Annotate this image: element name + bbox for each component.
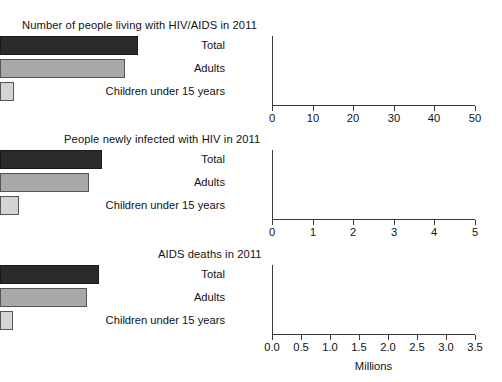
bar-children-under-15-years (0, 196, 19, 215)
y-axis-spine (272, 36, 273, 105)
bar-children-under-15-years (0, 311, 13, 330)
category-label: Total (201, 150, 225, 169)
bar-adults (0, 59, 125, 78)
chart-title-3: AIDS deaths in 2011 (158, 248, 262, 261)
x-axis-tick-label: 1.0 (322, 341, 338, 353)
chart-title-2: People newly infected with HIV in 2011 (64, 133, 260, 146)
x-axis-tick (388, 335, 389, 340)
x-axis-tick-label: 1.5 (351, 341, 367, 353)
x-axis-tick (434, 106, 435, 111)
x-axis-tick-label: 3 (391, 226, 397, 238)
x-axis-tick (394, 220, 395, 225)
x-axis-tick (313, 220, 314, 225)
bar-row (0, 265, 203, 284)
x-axis-tick (475, 106, 476, 111)
x-axis-tick-label: 2 (350, 226, 356, 238)
category-label: Total (201, 265, 225, 284)
bar-adults (0, 288, 87, 307)
y-axis-spine (272, 265, 273, 334)
bar-total (0, 150, 102, 169)
bar-row (0, 36, 203, 55)
x-axis-line (272, 334, 475, 335)
x-axis-line (272, 105, 475, 106)
x-axis-tick-label: 0 (269, 112, 275, 124)
bar-row (0, 59, 203, 78)
x-axis-tick-label: 30 (388, 112, 400, 124)
x-axis-tick-label: 2.5 (409, 341, 425, 353)
x-axis-line (272, 219, 475, 220)
x-axis-tick (313, 106, 314, 111)
bar-children-under-15-years (0, 82, 14, 101)
x-axis-tick-label: 0 (269, 226, 275, 238)
x-axis-tick-label: 5 (472, 226, 478, 238)
x-axis-tick (417, 335, 418, 340)
bar-row (0, 288, 203, 307)
x-axis-tick-label: 4 (431, 226, 437, 238)
category-label: Total (201, 36, 225, 55)
x-axis-tick (353, 106, 354, 111)
x-axis-tick-label: 0.0 (264, 341, 280, 353)
x-axis-tick-label: 2.0 (380, 341, 396, 353)
category-label: Adults (194, 288, 225, 307)
bar-total (0, 36, 138, 55)
x-axis-tick-label: 50 (469, 112, 481, 124)
x-axis-tick (272, 220, 273, 225)
bar-row (0, 173, 203, 192)
chart-title-1: Number of people living with HIV/AIDS in… (22, 19, 257, 32)
x-axis-tick (475, 220, 476, 225)
category-label: Children under 15 years (106, 82, 225, 101)
x-axis-tick (272, 335, 273, 340)
category-label: Children under 15 years (106, 196, 225, 215)
bar-adults (0, 173, 89, 192)
bar-total (0, 265, 99, 284)
x-axis-tick-label: 0.5 (293, 341, 309, 353)
x-axis-tick (330, 335, 331, 340)
y-axis-spine (272, 150, 273, 219)
category-label: Adults (194, 173, 225, 192)
x-axis-tick-label: 3.5 (467, 341, 483, 353)
x-axis-tick (301, 335, 302, 340)
bar-row (0, 150, 203, 169)
x-axis-tick (446, 335, 447, 340)
x-axis-tick-label: 40 (428, 112, 440, 124)
x-axis-tick (394, 106, 395, 111)
hiv-aids-bar-chart-figure: Number of people living with HIV/AIDS in… (0, 0, 502, 382)
category-label: Children under 15 years (106, 311, 225, 330)
x-axis-tick-label: 10 (307, 112, 319, 124)
x-axis-tick-label: 1 (310, 226, 316, 238)
x-axis-tick (272, 106, 273, 111)
x-axis-tick-label: 20 (347, 112, 359, 124)
category-label: Adults (194, 59, 225, 78)
x-axis-tick (353, 220, 354, 225)
x-axis-tick (434, 220, 435, 225)
x-axis-tick (475, 335, 476, 340)
x-axis-tick (359, 335, 360, 340)
x-axis-title: Millions (355, 360, 392, 372)
x-axis-tick-label: 3.0 (438, 341, 454, 353)
